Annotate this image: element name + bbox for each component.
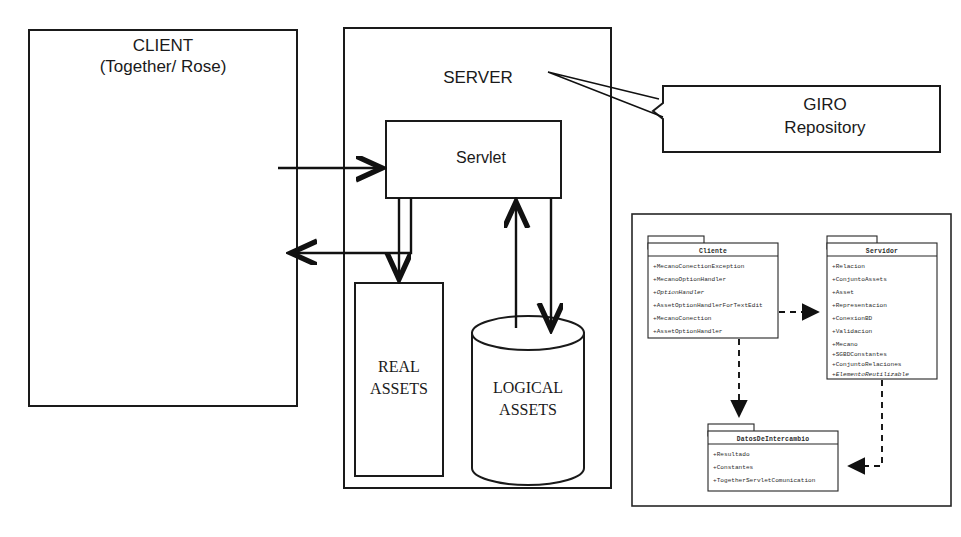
uml-attribute: +TogetherServletComunication: [713, 477, 816, 484]
uml-attribute: +Resultado: [713, 451, 750, 458]
client-frame: [29, 30, 297, 406]
logical-assets-label-line1: LOGICAL: [493, 379, 563, 396]
uml-package-servidor: Servidor +Relacion +ConjuntoAssets +Asse…: [827, 236, 937, 379]
uml-attribute: +MecanoConectionException: [653, 263, 745, 270]
uml-package-cliente: Cliente +MecanoConectionException +Mecan…: [648, 236, 778, 338]
logical-assets-label-line2: ASSETS: [499, 401, 557, 418]
uml-attribute: +MecanoConection: [653, 315, 712, 322]
uml-attribute: +SGBDConstantes: [832, 351, 887, 358]
uml-attribute: +Validacion: [832, 328, 873, 335]
uml-attribute: +Representacion: [832, 302, 887, 309]
client-title-line1: CLIENT: [133, 36, 193, 55]
real-assets-label-line2: ASSETS: [370, 380, 428, 397]
client-title-line2: (Together/ Rose): [100, 57, 227, 76]
uml-attribute: +ElementoReutilizable: [832, 371, 909, 378]
giro-label-line2: Repository: [784, 118, 866, 137]
uml-package-title: DatosDeIntercambio: [737, 436, 810, 443]
uml-package-datosdeintercambio: DatosDeIntercambio +Resultado +Constante…: [708, 424, 838, 491]
diagram-canvas: CLIENT (Together/ Rose) SERVER Servlet R…: [0, 0, 961, 537]
uml-attribute: +ConjuntoAssets: [832, 276, 887, 283]
uml-attribute: +OptionHandler: [653, 289, 705, 296]
uml-attribute: +ConjuntoRelaciones: [832, 361, 902, 368]
uml-package-title: Servidor: [866, 248, 898, 255]
uml-attribute: +MecanoOptionHandler: [653, 276, 726, 283]
uml-attribute: +Constantes: [713, 464, 754, 471]
server-title: SERVER: [443, 68, 513, 87]
servlet-label: Servlet: [456, 149, 506, 166]
uml-attribute: +AssetOptionHandler: [653, 328, 723, 335]
uml-attribute: +Relacion: [832, 263, 865, 270]
uml-package-title: Cliente: [699, 248, 727, 255]
giro-label-line1: GIRO: [803, 95, 846, 114]
uml-attribute: +AssetOptionHandlerForTextEdit: [653, 302, 763, 309]
architecture-svg: CLIENT (Together/ Rose) SERVER Servlet R…: [0, 0, 961, 537]
real-assets-label-line1: REAL: [378, 358, 420, 375]
uml-attribute: +ConexionBD: [832, 315, 873, 322]
uml-attribute: +Asset: [832, 289, 854, 296]
uml-attribute: +Mecano: [832, 341, 858, 348]
